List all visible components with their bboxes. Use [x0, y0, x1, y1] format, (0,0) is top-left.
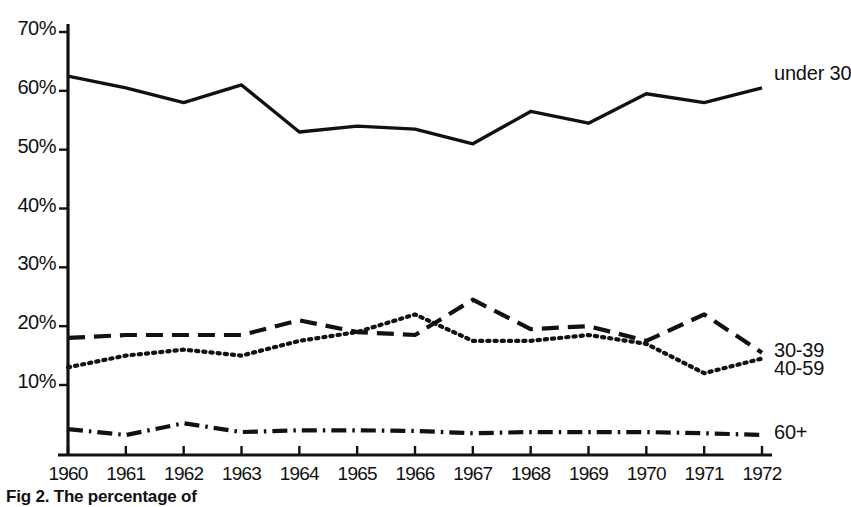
- x-tick-label: 1972: [738, 463, 786, 485]
- series-label-under-30: under 30: [774, 62, 851, 85]
- y-tick-label: 10%: [2, 370, 56, 393]
- x-tick-label: 1970: [622, 463, 670, 485]
- x-tick-label: 1969: [565, 463, 613, 485]
- x-tick-label: 1963: [218, 463, 266, 485]
- y-tick-label: 50%: [2, 135, 56, 158]
- x-tick-label: 1967: [449, 463, 497, 485]
- x-tick-label: 1968: [507, 463, 555, 485]
- series-line-30-39: [68, 300, 762, 353]
- series-line-under-30: [68, 76, 762, 144]
- figure-caption: Fig 2. The percentage of: [6, 487, 197, 507]
- x-tick-label: 1961: [102, 463, 150, 485]
- series-line-60: [68, 423, 762, 435]
- x-tick-label: 1962: [160, 463, 208, 485]
- y-tick-label: 20%: [2, 311, 56, 334]
- y-tick-label: 70%: [2, 17, 56, 40]
- x-tick-label: 1965: [333, 463, 381, 485]
- series-line-40-59: [68, 314, 762, 373]
- series-label-40-59: 40-59: [774, 357, 824, 380]
- chart-axes: [58, 24, 772, 455]
- x-tick-label: 1964: [275, 463, 323, 485]
- series-label-60-plus: 60+: [774, 421, 807, 444]
- y-tick-label: 60%: [2, 76, 56, 99]
- y-tick-label: 40%: [2, 194, 56, 217]
- x-tick-label: 1966: [391, 463, 439, 485]
- x-tick-label: 1960: [44, 463, 92, 485]
- x-tick-label: 1971: [680, 463, 728, 485]
- chart-series-group: [68, 76, 762, 435]
- y-tick-label: 30%: [2, 252, 56, 275]
